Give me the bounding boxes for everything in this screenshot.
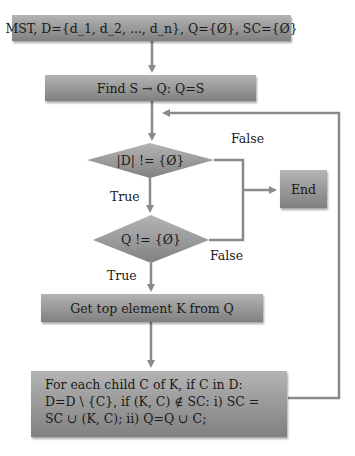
end-box: End bbox=[280, 170, 327, 208]
line-false-connector bbox=[209, 160, 243, 240]
init-label: MST, D={d_1, d_2, ..., d_n}, Q={Ø}, SC={… bbox=[5, 21, 297, 36]
label-check-d-false: False bbox=[231, 131, 264, 146]
find-s-label: Find S → Q: Q=S bbox=[97, 81, 204, 96]
get-top-label: Get top element K from Q bbox=[70, 301, 234, 316]
for-each-line-3: SC ∪ (K, C); ii) Q=Q ∪ C; bbox=[45, 410, 206, 427]
flowchart-canvas: MST, D={d_1, d_2, ..., d_n}, Q={Ø}, SC={… bbox=[0, 0, 355, 456]
init-box: MST, D={d_1, d_2, ..., d_n}, Q={Ø}, SC={… bbox=[12, 15, 291, 41]
for-each-box: For each child C of K, if C in D: D=D \ … bbox=[31, 371, 287, 437]
check-d-label: |D| != {Ø} bbox=[87, 143, 214, 178]
for-each-line-1: For each child C of K, if C in D: bbox=[45, 376, 243, 393]
check-q-label: Q != {Ø} bbox=[93, 215, 209, 263]
label-check-q-false: False bbox=[210, 248, 243, 263]
find-s-box: Find S → Q: Q=S bbox=[45, 75, 256, 101]
label-check-q-true: True bbox=[107, 268, 137, 283]
end-label: End bbox=[291, 182, 316, 197]
for-each-line-2: D=D \ {C}, if (K, C) ∉ SC: i) SC = bbox=[45, 393, 259, 410]
label-check-d-true: True bbox=[110, 189, 140, 204]
get-top-box: Get top element K from Q bbox=[41, 294, 263, 322]
